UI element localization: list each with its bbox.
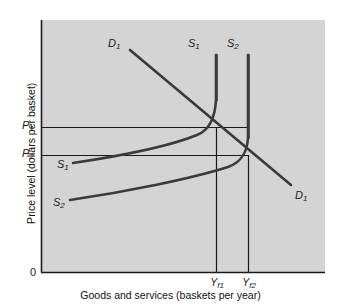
curve-label-s2-top: S2 xyxy=(227,38,239,49)
output-tick-yf2: Yf2 xyxy=(236,277,262,288)
curve-label-d1-top: D1 xyxy=(108,38,120,49)
output-tick-yf1: Yf1 xyxy=(204,277,230,288)
price-tick-p2: P2 xyxy=(22,148,34,159)
curve-label-s2-left: S2 xyxy=(53,197,65,208)
aggregate-supply-demand-figure: Price level (dollars per basket) Goods a… xyxy=(0,0,341,307)
curve-label-s1-left: S1 xyxy=(57,159,69,170)
plot-background xyxy=(41,20,325,272)
price-tick-p1: P1 xyxy=(22,120,34,131)
curve-label-d1-bottom: D1 xyxy=(295,190,307,201)
curve-label-s1-top: S1 xyxy=(188,38,200,49)
chart-canvas xyxy=(0,0,341,307)
x-axis-label: Goods and services (baskets per year) xyxy=(0,290,341,301)
origin-label: 0 xyxy=(30,267,36,278)
